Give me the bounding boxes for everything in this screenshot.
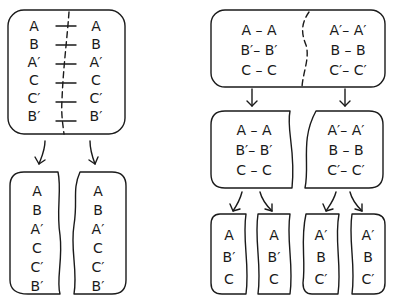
left-top-right-col: A B A′ C C′ B′ (86, 17, 106, 125)
right-top-left-pairs: A – A B′– B′ C – C (222, 20, 296, 80)
item: C′ (309, 268, 333, 290)
right-middle-box-2-pairs: A′– A′ B – B C′– C′ (310, 120, 382, 180)
pair: C – C (222, 60, 296, 80)
pair: B′– B′ (222, 40, 296, 60)
item: A (86, 17, 106, 35)
item: B (24, 201, 50, 220)
item: C (24, 71, 44, 89)
item: B′ (24, 107, 44, 125)
item: A′ (309, 224, 333, 246)
right-top-divider (302, 12, 309, 87)
item: A (24, 17, 44, 35)
left-bottom-box-2-items: A B A′ C C′ B′ (85, 182, 111, 296)
item: B (86, 35, 106, 53)
left-bottom-box-1-items: A B A′ C C′ B′ (24, 182, 50, 296)
item: B′ (262, 246, 286, 268)
item: C′ (356, 268, 380, 290)
pair: C′– C′ (313, 60, 383, 80)
item: C (85, 239, 111, 258)
item: A (217, 224, 241, 246)
item: C (86, 71, 106, 89)
item: C′ (24, 258, 50, 277)
pair: A′– A′ (313, 20, 383, 40)
right-top-right-pairs: A′– A′ B – B C′– C′ (313, 20, 383, 80)
pair: C′– C′ (310, 160, 382, 180)
pair: A – A (222, 20, 296, 40)
item: C (262, 268, 286, 290)
item: A′ (86, 53, 106, 71)
right-small-box-2-items: A B′ C (262, 224, 286, 290)
left-top-divider (62, 12, 69, 134)
item: C′ (86, 89, 106, 107)
item: A′ (24, 53, 44, 71)
right-small-box-4-items: A′ B C′ (356, 224, 380, 290)
pair: A′– A′ (310, 120, 382, 140)
item: A′ (356, 224, 380, 246)
pair: B′– B′ (218, 140, 290, 160)
item: B′ (85, 277, 111, 296)
item: C (24, 239, 50, 258)
item: B (309, 246, 333, 268)
item: A (262, 224, 286, 246)
pair: B – B (310, 140, 382, 160)
pair: B – B (313, 40, 383, 60)
item: B′ (24, 277, 50, 296)
pair: C – C (218, 160, 290, 180)
pair: A – A (218, 120, 290, 140)
right-small-box-1-items: A B′ C (217, 224, 241, 290)
item: C′ (24, 89, 44, 107)
item: B′ (217, 246, 241, 268)
item: A (24, 182, 50, 201)
item: B (85, 201, 111, 220)
item: C (217, 268, 241, 290)
item: C′ (85, 258, 111, 277)
item: B (24, 35, 44, 53)
item: B (356, 246, 380, 268)
item: A′ (85, 220, 111, 239)
item: A (85, 182, 111, 201)
right-small-box-3-items: A′ B C′ (309, 224, 333, 290)
right-middle-box-1-pairs: A – A B′– B′ C – C (218, 120, 290, 180)
item: A′ (24, 220, 50, 239)
item: B′ (86, 107, 106, 125)
left-top-left-col: A B A′ C C′ B′ (24, 17, 44, 125)
